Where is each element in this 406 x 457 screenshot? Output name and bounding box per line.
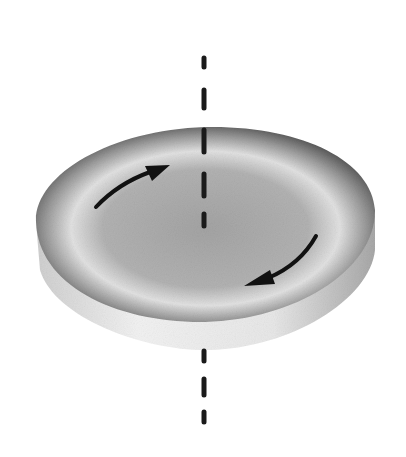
figure bbox=[0, 0, 406, 457]
rotating-disc-illustration bbox=[0, 0, 406, 457]
